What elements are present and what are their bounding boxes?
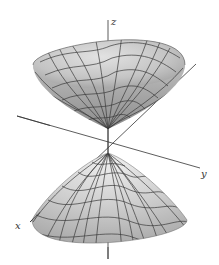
z-axis-label: z [110, 16, 117, 27]
y-axis-label: y [200, 168, 207, 179]
lower-cone [32, 153, 188, 255]
upper-cone [33, 34, 185, 129]
x-axis-label: x [15, 220, 21, 231]
double-cone-figure: z y x [0, 0, 219, 265]
